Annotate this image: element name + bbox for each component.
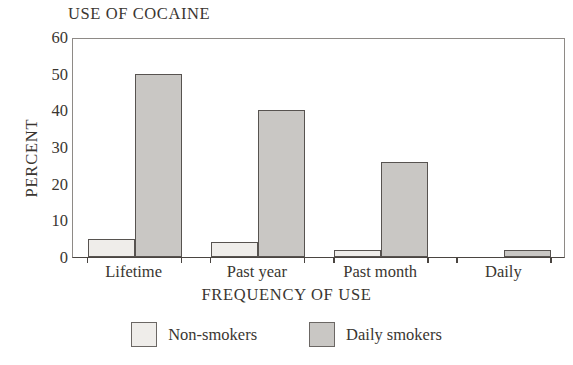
legend-swatch-icon (131, 322, 157, 347)
x-category-label: Past year (227, 262, 287, 282)
legend-item-daily-smokers[interactable]: Daily smokers (309, 322, 442, 347)
x-category-label: Past month (343, 262, 417, 282)
bar-daily-daily-smokers (504, 250, 551, 257)
bars-layer (73, 39, 564, 257)
x-axis-title: FREQUENCY OF USE (0, 285, 573, 305)
chart-title: USE OF COCAINE (68, 4, 210, 24)
x-axis-category-labels: LifetimePast yearPast monthDaily (72, 262, 565, 286)
y-tick-label: 0 (26, 248, 68, 268)
y-tick-label: 40 (26, 101, 68, 121)
x-category-label: Daily (485, 262, 522, 282)
bar-past-month-daily-smokers (381, 162, 428, 257)
bar-lifetime-non-smokers (88, 239, 135, 257)
y-tick-label: 10 (26, 211, 68, 231)
legend-item-non-smokers[interactable]: Non-smokers (131, 322, 257, 347)
chart-legend: Non-smokersDaily smokers (0, 322, 573, 347)
legend-swatch-icon (309, 322, 335, 347)
bar-past-month-non-smokers (334, 250, 381, 257)
x-category-label: Lifetime (105, 262, 162, 282)
chart-figure: USE OF COCAINE PERCENT 0102030405060 Lif… (0, 0, 573, 365)
bar-lifetime-daily-smokers (135, 74, 182, 257)
y-tick-label: 50 (26, 65, 68, 85)
legend-label: Non-smokers (168, 325, 257, 345)
bar-past-year-non-smokers (211, 242, 258, 257)
y-tick-label: 60 (26, 28, 68, 48)
y-tick-label: 20 (26, 175, 68, 195)
legend-label: Daily smokers (346, 325, 442, 345)
plot-area (72, 38, 565, 258)
bar-past-year-daily-smokers (258, 110, 305, 257)
y-tick-label: 30 (26, 138, 68, 158)
y-axis-tick-labels: 0102030405060 (16, 0, 68, 365)
